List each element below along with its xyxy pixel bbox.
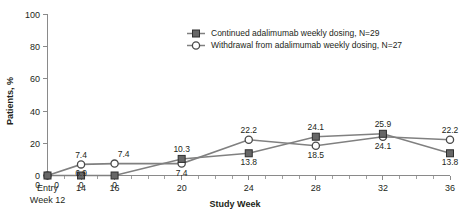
y-axis-title: Patients, % [5, 77, 15, 125]
label-continued-32: 25.9 [375, 119, 392, 129]
x-tick-label-20: 20 [177, 183, 187, 193]
data-point-continued [178, 155, 185, 162]
label-withdrawal-24: 22.2 [240, 125, 257, 135]
x-tick-label-36: 36 [445, 183, 455, 193]
label-continued-24: 13.8 [240, 157, 257, 167]
label-withdrawal-12: 0 [54, 180, 59, 190]
legend-label-continued: Continued adalimumab weekly dosing, N=29 [211, 28, 380, 38]
label-withdrawal-32: 24.1 [375, 141, 392, 151]
chart-legend: Continued adalimumab weekly dosing, N=29… [187, 28, 402, 50]
line-chart: 100 80 60 40 20 0 Patients, % [0, 0, 462, 222]
label-withdrawal-16: 7.4 [118, 149, 130, 159]
x-tick-label-24: 24 [244, 183, 254, 193]
label-continued-28: 24.1 [308, 122, 325, 132]
y-tick-label-20: 20 [30, 139, 40, 149]
legend-label-withdrawal: Withdrawal from adalimumab weekly dosing… [211, 40, 402, 50]
label-continued-14: 0 [79, 180, 84, 190]
label-continued-20: 10.3 [173, 144, 190, 154]
label-withdrawal-20: 7.4 [176, 168, 188, 178]
x-tick-label-32: 32 [378, 183, 388, 193]
x-tick-sublabel-week12: Week 12 [30, 195, 65, 205]
x-tick-label-28: 28 [311, 183, 321, 193]
label-withdrawal-28: 18.5 [308, 150, 325, 160]
legend-marker-square-icon [193, 30, 200, 37]
label-withdrawal-14: 6.9 [75, 168, 87, 178]
label-continued-16: 0 [112, 180, 117, 190]
y-tick-label-100: 100 [25, 10, 40, 20]
x-axis-minor-ticks [64, 176, 450, 180]
data-point-continued [312, 133, 319, 140]
y-tick-label-80: 80 [30, 42, 40, 52]
x-axis-title: Study Week [210, 199, 262, 209]
data-point-withdrawal [446, 136, 453, 143]
data-point-continued [379, 130, 386, 137]
data-point-withdrawal [245, 136, 252, 143]
y-axis-ticks [43, 15, 48, 176]
data-point-continued [111, 172, 118, 179]
label-extra-0: 7.4 [75, 150, 87, 160]
data-point-withdrawal [77, 161, 84, 168]
data-point-continued [44, 172, 51, 179]
y-tick-label-60: 60 [30, 74, 40, 84]
label-continued-36: 13.8 [442, 157, 459, 167]
data-point-withdrawal [312, 142, 319, 149]
y-tick-label-40: 40 [30, 107, 40, 117]
label-withdrawal-36: 22.2 [442, 125, 459, 135]
data-point-continued [447, 150, 454, 157]
data-point-withdrawal [111, 160, 118, 167]
data-point-continued [245, 150, 252, 157]
legend-marker-circle-icon [192, 42, 199, 49]
chart-container: 100 80 60 40 20 0 Patients, % [0, 0, 462, 222]
label-continued-12: 0 [35, 180, 40, 190]
